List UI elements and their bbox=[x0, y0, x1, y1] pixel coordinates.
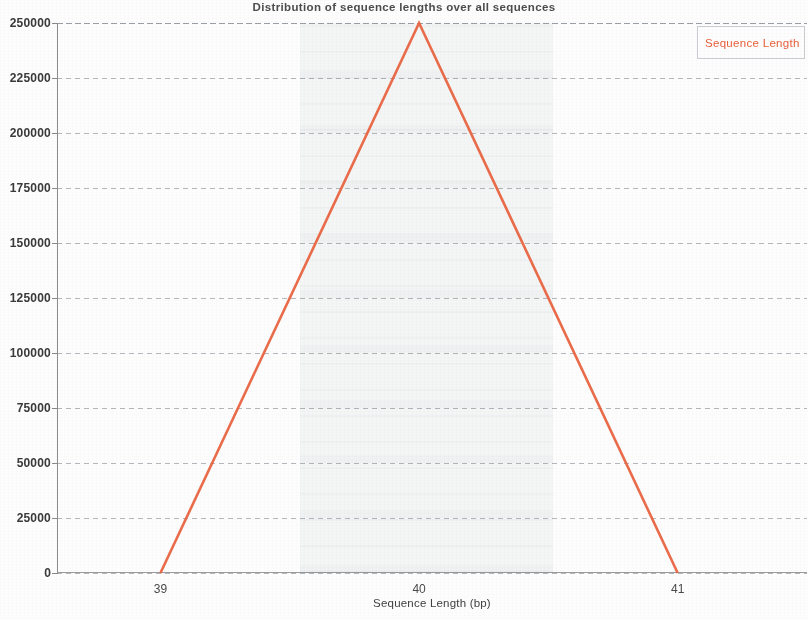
series-plot-sequence-length bbox=[57, 23, 807, 573]
y-axis-tick-label: 100000 bbox=[0, 346, 51, 360]
y-axis-tick-label: 125000 bbox=[0, 291, 51, 305]
plot-area: 2500002250002000001750001500001250001000… bbox=[57, 23, 807, 573]
y-axis-tick bbox=[52, 353, 58, 354]
chart-title: Distribution of sequence lengths over al… bbox=[0, 1, 808, 13]
y-axis-tick-label: 75000 bbox=[0, 401, 51, 415]
y-axis-tick bbox=[52, 23, 58, 24]
y-axis-tick-label: 225000 bbox=[0, 71, 51, 85]
y-axis-tick bbox=[52, 573, 58, 574]
gridline bbox=[57, 573, 807, 574]
y-axis-tick bbox=[52, 518, 58, 519]
y-axis-tick bbox=[52, 188, 58, 189]
legend-item-sequence-length: Sequence Length bbox=[705, 37, 800, 49]
y-axis-tick-label: 175000 bbox=[0, 181, 51, 195]
x-axis-tick-label: 41 bbox=[648, 582, 708, 596]
chart-screenshot: Distribution of sequence lengths over al… bbox=[0, 0, 808, 619]
series-line bbox=[160, 23, 677, 573]
y-axis-tick bbox=[52, 243, 58, 244]
y-axis-tick bbox=[52, 78, 58, 79]
y-axis-tick-label: 0 bbox=[0, 566, 51, 580]
x-axis-tick-label: 40 bbox=[389, 582, 449, 596]
y-axis-tick-label: 50000 bbox=[0, 456, 51, 470]
y-axis-tick-label: 25000 bbox=[0, 511, 51, 525]
y-axis-tick-label: 200000 bbox=[0, 126, 51, 140]
y-axis-tick-label: 250000 bbox=[0, 16, 51, 30]
y-axis-tick bbox=[52, 133, 58, 134]
y-axis-tick bbox=[52, 298, 58, 299]
y-axis-tick bbox=[52, 463, 58, 464]
y-axis-tick-label: 150000 bbox=[0, 236, 51, 250]
x-axis-tick-label: 39 bbox=[130, 582, 190, 596]
y-axis-tick bbox=[52, 408, 58, 409]
x-axis-title: Sequence Length (bp) bbox=[57, 597, 807, 609]
legend: Sequence Length bbox=[697, 26, 805, 59]
